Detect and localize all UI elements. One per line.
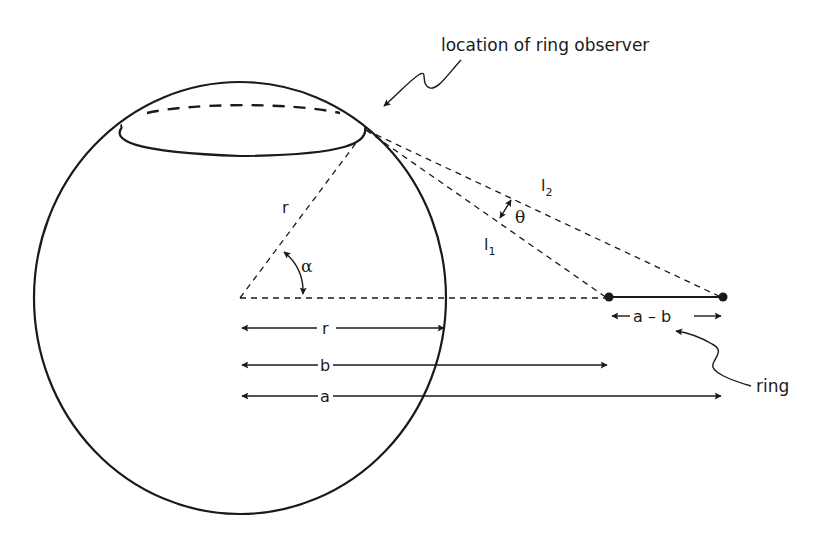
dim-a-label: a xyxy=(320,387,330,406)
radius-line xyxy=(240,143,356,298)
ring-outer-point xyxy=(719,293,728,302)
l1-label: l1 xyxy=(484,235,495,258)
observer-pointer-arrow xyxy=(384,60,461,106)
alpha-label: α xyxy=(301,256,313,276)
ring-annotation: ring xyxy=(756,376,789,396)
theta-arrow xyxy=(500,200,511,218)
ring-inner-point xyxy=(605,293,614,302)
observer-annotation: location of ring observer xyxy=(441,35,649,55)
l2-label: l2 xyxy=(541,176,552,199)
cap-back-arc xyxy=(147,105,340,113)
sightline-l1 xyxy=(366,130,607,298)
dim-r-label: r xyxy=(322,319,329,338)
dim-b-label: b xyxy=(320,356,330,375)
diagram-canvas: r α l1 l2 θ a – b r b xyxy=(0,0,820,534)
dim-a-minus-b-label: a – b xyxy=(633,307,671,326)
theta-label: θ xyxy=(515,207,525,227)
ring-pointer-arrow xyxy=(676,331,751,386)
sphere-ring-diagram: r α l1 l2 θ a – b r b xyxy=(0,0,820,534)
cap-front-arc xyxy=(120,127,366,156)
radius-label: r xyxy=(282,198,289,217)
sightline-l2 xyxy=(366,130,723,298)
cap-left-edge xyxy=(121,125,122,127)
